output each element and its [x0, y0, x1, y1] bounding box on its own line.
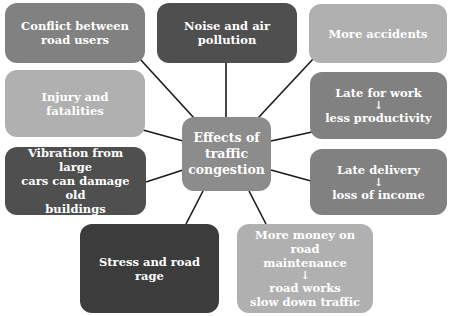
node-text: maintenance — [263, 256, 346, 270]
node-text: More accidents — [328, 27, 427, 41]
node-text: Injury and fatalities — [13, 90, 137, 118]
center-text: congestion — [188, 162, 265, 178]
node-accidents: More accidents — [309, 4, 447, 63]
node-stress: Stress and road rage — [80, 224, 219, 313]
center-node: Effects of traffic congestion — [182, 117, 271, 191]
node-text: cars can damage old — [13, 174, 138, 202]
center-text: traffic — [205, 146, 248, 162]
node-vibration: Vibration from large cars can damage old… — [5, 147, 146, 215]
node-text: road users — [41, 33, 109, 47]
node-text: Stress and road rage — [88, 255, 211, 283]
node-late-delivery: Late delivery ↓ loss of income — [310, 149, 447, 215]
node-text: More money on road — [245, 228, 365, 256]
node-text: slow down traffic — [250, 295, 360, 309]
node-text: Late delivery — [337, 163, 420, 177]
node-text: loss of income — [332, 188, 425, 202]
node-text: Noise and air pollution — [165, 19, 289, 47]
node-text: Conflict between — [21, 19, 129, 33]
center-text: Effects of — [193, 130, 259, 146]
node-text: road works — [269, 281, 340, 295]
node-text: Vibration from large — [13, 146, 138, 174]
node-conflict: Conflict between road users — [5, 3, 145, 63]
down-arrow-icon: ↓ — [300, 270, 309, 281]
down-arrow-icon: ↓ — [374, 177, 383, 188]
down-arrow-icon: ↓ — [374, 100, 383, 111]
node-late-work: Late for work ↓ less productivity — [310, 72, 447, 139]
node-text: Late for work — [335, 86, 421, 100]
node-injury: Injury and fatalities — [5, 70, 145, 137]
node-text: less productivity — [325, 111, 432, 125]
node-road-money: More money on road maintenance ↓ road wo… — [237, 224, 373, 313]
node-noise: Noise and air pollution — [157, 3, 297, 63]
node-text: buildings — [45, 202, 105, 216]
